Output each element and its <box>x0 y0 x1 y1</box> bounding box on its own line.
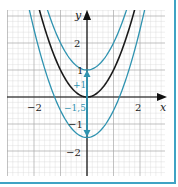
y-axis-arrow-icon <box>83 10 91 20</box>
x-tick-label-neg2: −2 <box>27 102 42 113</box>
arrow-up-icon <box>84 70 91 77</box>
y-tick-label-neg2: −2 <box>66 147 81 158</box>
parabola-graph-figure: x y −2 2 2 1 −1 −2 +1 −1,5 <box>0 0 178 187</box>
x-tick-label-2: 2 <box>135 102 141 113</box>
graph-canvas: x y −2 2 2 1 −1 −2 +1 −1,5 <box>0 0 178 187</box>
shift-down-label: −1,5 <box>64 103 86 113</box>
grid-major <box>7 10 165 176</box>
y-tick-label-1: 1 <box>77 65 83 76</box>
y-tick-label-neg1: −1 <box>68 119 83 130</box>
x-axis-label: x <box>160 101 167 114</box>
shift-up-label: +1 <box>73 80 86 90</box>
y-axis-label: y <box>74 9 82 22</box>
x-axis-arrow-icon <box>157 93 167 101</box>
y-tick-label-2: 2 <box>74 38 80 49</box>
arrow-down-icon <box>84 130 91 137</box>
